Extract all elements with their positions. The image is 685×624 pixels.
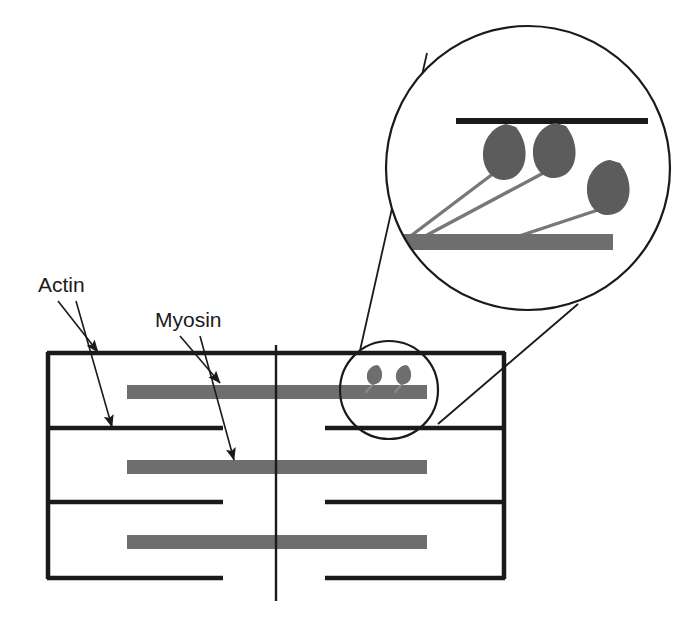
myosin-head-small-2 xyxy=(396,365,411,384)
sarcomere-diagram-canvas: Actin Myosin xyxy=(0,0,685,624)
actin-pointer-2 xyxy=(76,301,112,427)
large-magnifier-circle-fill xyxy=(386,26,670,310)
inset-myosin-filament xyxy=(404,234,613,250)
sarcomere xyxy=(47,345,505,601)
large-magnifier-inset xyxy=(386,26,670,310)
magnifier-connector-lower xyxy=(438,304,578,424)
figure-root: Actin Myosin xyxy=(0,0,685,624)
label-actin: Actin xyxy=(38,273,85,296)
myosin-head-small-1 xyxy=(367,365,382,384)
myosin-pointer-1 xyxy=(180,336,220,383)
label-myosin: Myosin xyxy=(155,308,222,331)
